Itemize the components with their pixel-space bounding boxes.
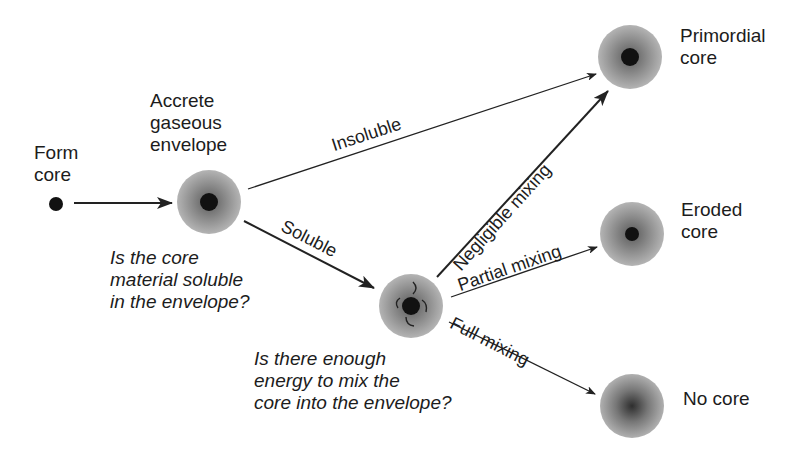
question-soluble: Is the core material soluble in the enve… — [110, 247, 249, 313]
primordial-core-label: Primordial core — [680, 25, 766, 69]
primordial-core-sphere — [598, 25, 662, 89]
eroded-line2: core — [681, 221, 742, 243]
question1-line2: material soluble — [110, 269, 249, 291]
question2-line3: core into the envelope? — [254, 392, 452, 414]
mixing-sphere — [379, 274, 443, 338]
primordial-line1: Primordial — [680, 25, 766, 47]
question2-line1: Is there enough — [254, 348, 452, 370]
form-core-dot — [49, 197, 63, 211]
eroded-core-sphere — [600, 202, 664, 266]
form-core-label: Form core — [34, 142, 78, 186]
accrete-label: Accrete gaseous envelope — [150, 90, 227, 156]
eroded-line1: Eroded — [681, 199, 742, 221]
question2-line2: energy to mix the — [254, 370, 452, 392]
question1-line1: Is the core — [110, 247, 249, 269]
accrete-line2: gaseous — [150, 112, 227, 134]
question1-line3: in the envelope? — [110, 291, 249, 313]
eroded-core-label: Eroded core — [681, 199, 742, 243]
no-core-label: No core — [683, 388, 750, 410]
accrete-line1: Accrete — [150, 90, 227, 112]
no-core-line1: No core — [683, 388, 750, 410]
primordial-line2: core — [680, 47, 766, 69]
form-core-line2: core — [34, 164, 78, 186]
question-mixing: Is there enough energy to mix the core i… — [254, 348, 452, 414]
accrete-line3: envelope — [150, 134, 227, 156]
accrete-sphere — [177, 170, 241, 234]
form-core-line1: Form — [34, 142, 78, 164]
no-core-sphere — [600, 374, 664, 438]
